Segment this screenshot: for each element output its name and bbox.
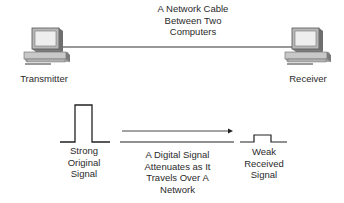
weak-signal-label: Weak Received Signal: [236, 146, 292, 181]
weak-signal-label-line: Signal: [236, 169, 292, 181]
transmitter-label: Transmitter: [14, 73, 74, 85]
strong-signal-waveform: [60, 105, 110, 142]
attenuation-label-line: Attenuates as It: [125, 161, 230, 173]
attenuation-label-line: Travels Over A: [125, 172, 230, 184]
weak-signal-waveform: [240, 135, 287, 142]
receiver-computer-icon: [285, 28, 331, 65]
weak-signal-label-line: Received: [236, 158, 292, 170]
attenuation-arrow: [122, 129, 233, 134]
receiver-label: Receiver: [282, 73, 334, 85]
strong-signal-label-line: Signal: [58, 168, 110, 180]
weak-signal-label-line: Weak: [236, 146, 292, 158]
strong-signal-label: Strong Original Signal: [58, 145, 110, 180]
cable-label-line: A Network Cable: [138, 3, 248, 15]
attenuation-label: A Digital Signal Attenuates as It Travel…: [125, 149, 230, 195]
cable-label: A Network Cable Between Two Computers: [138, 3, 248, 38]
attenuation-label-line: A Digital Signal: [125, 149, 230, 161]
cable-label-line: Computers: [138, 26, 248, 38]
cable-label-line: Between Two: [138, 15, 248, 27]
strong-signal-label-line: Strong: [58, 145, 110, 157]
attenuation-label-line: Network: [125, 184, 230, 196]
strong-signal-label-line: Original: [58, 157, 110, 169]
